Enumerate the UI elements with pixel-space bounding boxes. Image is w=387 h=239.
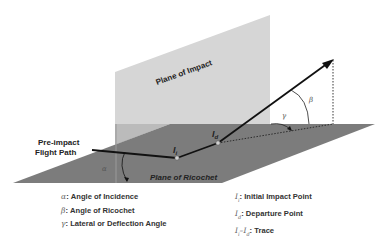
legend-initial-text: : Initial Impact Point (240, 192, 312, 201)
plane-of-ricochet-label: Plane of Ricochet (150, 173, 217, 182)
gamma-label: γ (282, 112, 287, 120)
beta-arc (291, 90, 309, 124)
arrowhead-icon (322, 59, 334, 69)
legend-beta-text: : Angle of Ricochet (65, 206, 134, 215)
initial-impact-point (175, 156, 179, 160)
legend-gamma: γ: Lateral or Deflection Angle (61, 217, 167, 231)
legend-departure: Id: Departure Point (235, 207, 312, 224)
legend-left: α: Angle of Incidence β: Angle of Ricoch… (61, 190, 167, 231)
legend-alpha-text: : Angle of Incidence (66, 192, 138, 201)
legend-gamma-text: : Lateral or Deflection Angle (66, 219, 167, 228)
pre-impact-label-line2: Flight Path (35, 148, 76, 157)
beta-label: β (308, 96, 313, 104)
alpha-label: α (102, 165, 107, 173)
legend-right: Ii: Initial Impact Point Id: Departure P… (235, 190, 312, 239)
legend-departure-text: : Departure Point (241, 209, 303, 218)
legend-beta: β: Angle of Ricochet (61, 204, 167, 218)
legend-trace: Ii–Id: Trace (235, 224, 312, 239)
legend-initial-impact: Ii: Initial Impact Point (235, 190, 312, 207)
legend-trace-text: : Trace (250, 226, 274, 235)
ricochet-diagram: Plane of Impact Plane of Ricochet Pre-im… (0, 0, 387, 239)
legend-alpha: α: Angle of Incidence (61, 190, 167, 204)
departure-point (216, 141, 220, 145)
pre-impact-label-line1: Pre-impact (38, 138, 80, 147)
